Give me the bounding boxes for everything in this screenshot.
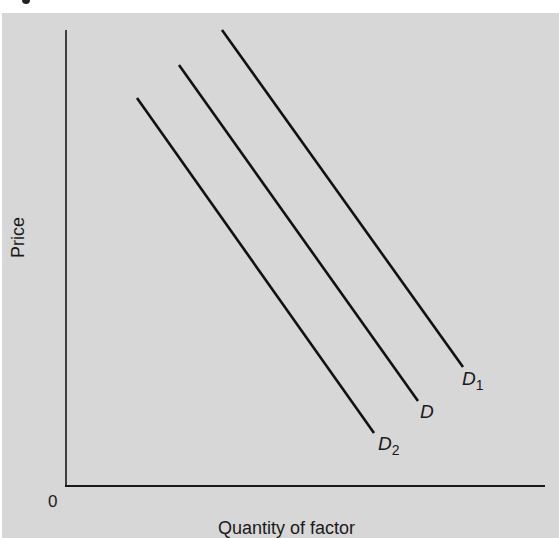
- curve-label-main: D: [378, 433, 392, 454]
- curve-label-d: D: [420, 401, 434, 423]
- curve-d1: [222, 30, 463, 367]
- y-axis-label: Price: [8, 217, 29, 258]
- curve-label-subscript: 1: [476, 377, 484, 393]
- origin-label: 0: [48, 492, 57, 512]
- curve-label-main: D: [462, 368, 476, 389]
- demand-diagram: [0, 0, 559, 538]
- curve-label-d1: D1: [462, 368, 484, 393]
- curve-label-main: D: [420, 401, 434, 422]
- curve-label-subscript: 2: [392, 442, 400, 458]
- curve-label-d2: D2: [378, 433, 400, 458]
- curve-d2: [137, 98, 374, 433]
- curve-d: [179, 65, 418, 401]
- x-axis-label: Quantity of factor: [218, 518, 355, 538]
